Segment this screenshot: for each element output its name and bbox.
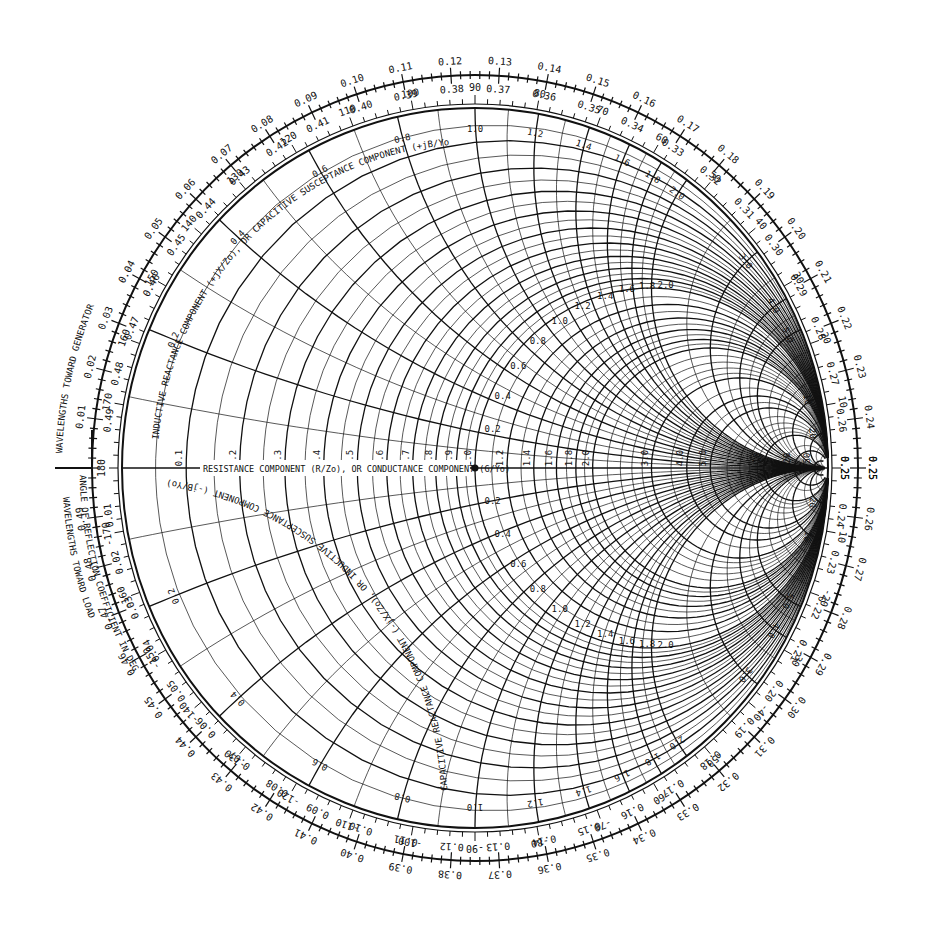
reactance-label-r1: 1.8 [639,281,655,291]
wavelength-load-label: 0.32 [716,770,742,794]
wavelength-load-label: 0.26 [862,506,876,531]
wavelength-load-label: 0.40 [339,847,365,865]
wavelength-load-label: 0.49 [101,408,115,433]
wavelength-load-label: 0.45 [165,232,188,258]
wavelength-generator-label: 0.09 [293,89,319,109]
wavelength-generator-label: 0.10 [339,71,365,89]
wavelength-load-label: 0.43 [209,770,235,794]
angle-label: -90 [466,843,484,854]
wavelength-generator-label: 0.17 [660,777,686,799]
wavelength-generator-label: 0.13 [488,55,513,67]
reactance-label-r1: 1.4 [597,629,613,639]
reactance-label: 1.4 [574,784,593,799]
wavelength-generator-label: 0.23 [825,549,842,575]
wavelength-generator-label: 0.12 [439,841,464,853]
wavelength-load-label: 0.29 [813,651,834,677]
wavelength-generator-label: 0.18 [698,748,724,772]
resistance-label: 0.1 [174,450,184,466]
resistance-label: 5.0 [698,450,708,466]
wavelength-generator-label: 0.11 [388,60,414,75]
wavelength-load-label: 0.30 [785,695,808,721]
wavelength-load-label: 0.40 [348,98,374,116]
resistance-caption: RESISTANCE COMPONENT (R/Zo), OR CONDUCTA… [203,464,510,474]
wavelength-generator-label: 0.08 [249,113,275,135]
wavelength-generator-label: 0.15 [576,820,602,838]
wavelength-load-label: 0.28 [809,315,828,341]
wavelength-load-label: 0.42 [264,136,290,158]
wavelength-generator-label: 0.21 [813,258,834,284]
wavelength-generator-label: 0.04 [116,258,137,284]
angle-label: 40 [753,215,769,231]
resistance-label: 3.0 [640,450,650,466]
reactance-label-r1: 1.0 [552,604,568,614]
reactance-label-r1: 1.2 [574,301,590,311]
wavelength-load-label: 0.43 [227,164,253,188]
resistance-label: 20 [782,453,792,464]
reactance-label: 0.2 [166,587,181,606]
reactance-label-r1: 1.6 [619,636,635,646]
wavelength-generator-label: 0.22 [835,305,854,331]
reactance-label-r1: 1.0 [552,316,568,326]
wavelength-generator-label: 0.13 [486,841,511,853]
wavelength-load-label: 0.34 [619,115,645,135]
wavelength-generator-label: 0.22 [809,594,828,620]
wavelength-load-label: 0.46 [141,272,162,298]
wavelength-load-label: 0.45 [142,695,165,721]
wavelength-generator-label: 0.21 [788,638,809,664]
wavelength-load-label: 0.38 [438,868,463,880]
wavelength-generator-label: 0.12 [438,55,463,67]
reactance-label: 1.4 [574,138,593,153]
wavelength-load-label: 0.39 [388,861,414,876]
wavelength-load-label: 0.27 [825,361,842,387]
wavelength-load-label: 0.28 [835,605,854,631]
reactance-label-r1: 1.8 [639,639,655,649]
wavelength-load-label: 0.48 [109,361,126,387]
wavelength-generator-label: 0.01 [101,503,115,528]
resistance-label: 1.4 [522,450,532,466]
reactance-label: 1.0 [467,124,483,134]
reactance-label: 2.0 [668,184,687,202]
wavelength-load-label: 0.27 [852,556,869,582]
reactance-label-r1: 2.0 [658,280,674,290]
wavelength-load-label: 0.30 [762,232,785,258]
wavelength-load-label: 0.36 [531,88,557,103]
reactance-label: 20 [807,428,818,440]
wavelength-generator-label: 0.14 [537,60,563,75]
reactance-label-r1: 2.0 [658,640,674,650]
reactance-label-r1: 1.4 [597,291,613,301]
wavelength-generator-label: 0.16 [631,89,657,109]
wavelength-load-label: 0.36 [537,861,563,876]
reactance-label: 20 [807,497,818,509]
wavelength-generator-label: 0.24 [835,503,849,528]
wavelength-generator-label: 0.05 [142,215,165,241]
reactance-label-r1: 1.2 [574,619,590,629]
wavelength-load-label: 0.26 [835,408,849,433]
wavelength-generator-label: 0.20 [762,678,785,704]
wavelength-load-label: 0.35 [585,847,611,865]
wavelength-generator-label: 0.02 [109,549,126,575]
wavelength-generator-label: 0.02 [82,354,99,380]
wavelength-load-label: 0.39 [393,88,419,103]
reactance-label: 10 [802,530,814,543]
wavelength-load-label: 0.42 [249,801,275,823]
wavelength-generator-label: 0.14 [531,833,557,848]
wavelength-load-label: 0.41 [293,827,319,847]
reactance-label: 1.2 [526,797,544,810]
wavelength-load-label: 0.29 [788,272,809,298]
smith-chart-svg: 10-1020-2030-3040-4050-5060-6070-7080-80… [0,0,926,928]
wavelength-generator-label: 0.03 [96,305,115,331]
reactance-label: 1.0 [467,802,483,812]
wavelength-load-label: 0.47 [122,315,141,341]
wavelength-generator-label: 0.10 [348,820,374,838]
wavelength-generator-label: 0.05 [165,678,188,704]
axis-captions: RESISTANCE COMPONENT (R/Zo), OR CONDUCTA… [0,0,510,791]
resistance-label: 50 [802,453,812,464]
reactance-label-r1: 0.8 [530,336,546,346]
reactance-label: 0.8 [393,791,411,804]
resistance-label: 10 [752,453,762,464]
wavelength-generator-label: 0.03 [122,594,141,620]
reactance-label: 2.0 [668,734,687,752]
wavelength-load-label: 0.38 [439,83,464,95]
wavelength-generator-label: 0.20 [785,215,808,241]
capacitive-caption: CAPACITIVE REACTANCE COMPONENT (-jX/Zo),… [166,478,450,791]
